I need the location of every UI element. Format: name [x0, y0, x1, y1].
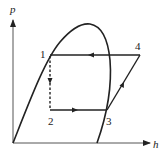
point-2-label: 2: [48, 115, 54, 127]
saturation-dome: [13, 24, 110, 143]
arrow-left-icon: [88, 53, 94, 58]
arrow-right-icon: [72, 108, 78, 113]
arrow-down-icon: [48, 78, 53, 84]
point-4-label: 4: [135, 40, 141, 52]
y-axis-label: p: [9, 3, 16, 15]
ph-diagram: p h 1 2 3 4: [0, 0, 165, 152]
point-1-label: 1: [40, 48, 46, 60]
point-3-label: 3: [106, 115, 112, 127]
process-4-1: [50, 53, 140, 58]
process-3-4: [107, 55, 140, 110]
process-2-3: [50, 108, 107, 113]
x-axis-label: h: [153, 138, 159, 150]
process-1-2: [48, 56, 53, 110]
